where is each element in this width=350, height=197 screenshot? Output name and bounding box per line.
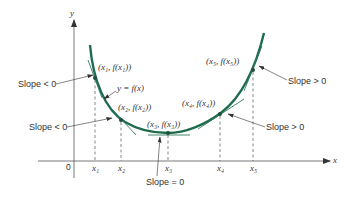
- slope-label-x3: Slope = 0: [146, 177, 184, 187]
- curve-label-pointer: [104, 91, 116, 99]
- point-x2: [119, 118, 123, 122]
- slope-pointer-x5: [259, 66, 287, 80]
- point-x4: [218, 112, 222, 116]
- point-label-x5: (x₅, f(x₅)): [206, 56, 239, 66]
- x-tick-x2: x₂: [117, 163, 125, 173]
- slope-pointer-x3: [157, 137, 160, 176]
- point-label-x3: (x₃, f(x₃)): [147, 119, 180, 129]
- point-x5: [251, 68, 255, 72]
- slope-label-x1: Slope < 0: [18, 79, 56, 89]
- slope-pointer-x1: [56, 75, 93, 84]
- point-x3: [166, 131, 170, 135]
- tangent-slope-diagram: y x 0 (x₁, f(x₁)) (x₂, f(x₂)) (x₃, f(x₃)…: [0, 0, 350, 197]
- x-axis-label: x: [332, 155, 337, 165]
- slope-label-x4: Slope > 0: [266, 122, 304, 132]
- curve-label: y = f(x): [116, 83, 144, 93]
- point-x1: [93, 76, 97, 80]
- slope-pointer-x4: [228, 114, 265, 127]
- slope-label-x2: Slope < 0: [29, 122, 67, 132]
- point-label-x1: (x₁, f(x₁)): [98, 62, 131, 72]
- point-label-x4: (x₄, f(x₄)): [182, 98, 215, 108]
- origin-label: 0: [66, 162, 71, 172]
- point-label-x2: (x₂, f(x₂)): [118, 102, 151, 112]
- y-axis-label: y: [69, 8, 74, 18]
- x-tick-x1: x₁: [91, 163, 99, 173]
- slope-label-x5: Slope > 0: [288, 76, 326, 86]
- x-tick-x5: x₅: [249, 163, 257, 173]
- x-tick-x4: x₄: [216, 163, 224, 173]
- x-tick-x3: x₃: [164, 163, 172, 173]
